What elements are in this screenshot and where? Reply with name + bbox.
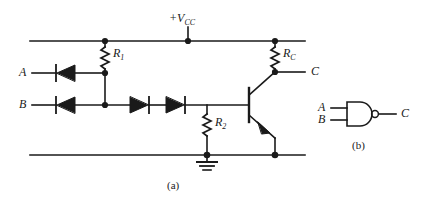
nand-output-c-label: C bbox=[401, 107, 409, 119]
transistor-emitter-arrow bbox=[258, 122, 270, 134]
r1-zigzag bbox=[101, 47, 109, 69]
junction-dot-r1-supply bbox=[102, 38, 108, 44]
rc-zigzag bbox=[271, 47, 279, 69]
vcc-label: +VCC bbox=[169, 12, 195, 27]
input-b-label: B bbox=[19, 98, 26, 110]
junction-dot-vcc bbox=[185, 38, 191, 44]
rc-label: RC bbox=[283, 47, 296, 62]
figure-container: +VCC A B C R1 RC R2 A B C (a) (b) bbox=[0, 0, 422, 206]
transistor-collector-lead bbox=[249, 72, 275, 95]
circuit-diagram bbox=[0, 0, 422, 206]
diode-a-triangle bbox=[57, 65, 75, 81]
caption-b: (b) bbox=[352, 140, 365, 151]
caption-a: (a) bbox=[167, 180, 179, 191]
r1-label: R1 bbox=[113, 47, 124, 62]
series-diode-2-triangle bbox=[166, 97, 184, 113]
junction-dot-ground-emitter bbox=[272, 152, 279, 159]
diode-b-triangle bbox=[57, 97, 75, 113]
series-diode-1-triangle bbox=[130, 97, 148, 113]
input-a-label: A bbox=[19, 66, 26, 78]
junction-dot-a-node bbox=[102, 70, 108, 76]
r2-label: R2 bbox=[215, 116, 226, 131]
output-c-label: C bbox=[311, 65, 319, 77]
nand-gate-body bbox=[347, 102, 372, 126]
r2-zigzag bbox=[203, 114, 211, 136]
junction-dot-rc-supply bbox=[272, 38, 278, 44]
nand-input-b-label: B bbox=[318, 113, 325, 125]
junction-dot-collector bbox=[272, 69, 278, 75]
junction-dot-ground-r2 bbox=[204, 152, 211, 159]
junction-dot-b-node bbox=[102, 102, 108, 108]
